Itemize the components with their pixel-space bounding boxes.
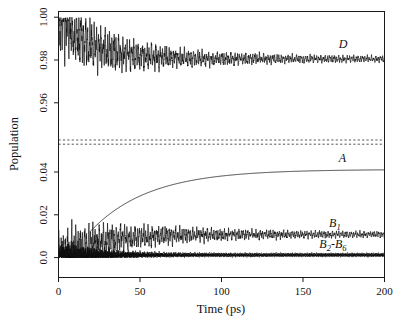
curve-label-b2-b6: B2-B6: [319, 237, 347, 253]
series-curve-d: [59, 17, 385, 76]
x-tick-label: 50: [135, 285, 147, 297]
x-tick-label: 100: [213, 285, 230, 297]
curve-label-text: B1: [329, 216, 341, 232]
y-tick-label: 0.04: [37, 162, 49, 182]
series-annotations: DAB1B2-B6: [319, 37, 348, 253]
y-axis-tick-labels: 1.000.980.960.040.020.0: [37, 7, 49, 264]
curve-label-d: D: [338, 37, 348, 51]
y-tick-label: 0.02: [37, 205, 49, 224]
curve-label-text: A: [338, 151, 347, 165]
x-axis-title: Time (ps): [197, 302, 246, 316]
y-axis-title: Population: [7, 116, 21, 171]
y-tick-label: 0.98: [37, 50, 49, 70]
curve-label-a: A: [338, 151, 347, 165]
y-tick-label: 0.0: [37, 250, 49, 264]
x-tick-label: 200: [376, 285, 393, 297]
population-dynamics-figure: 1.000.980.960.040.020.0 050100150200 DAB…: [0, 0, 405, 332]
curve-label-b1: B1: [329, 216, 341, 232]
y-tick-label: 1.00: [37, 7, 49, 27]
x-tick-label: 0: [56, 285, 62, 297]
chart-canvas: 1.000.980.960.040.020.0 050100150200 DAB…: [0, 0, 405, 332]
axis-break-markers: [59, 140, 385, 144]
y-tick-label: 0.96: [37, 93, 49, 113]
curve-label-text: B2-B6: [319, 237, 347, 253]
curve-label-text: D: [338, 37, 348, 51]
x-axis-tick-labels: 050100150200: [56, 285, 394, 297]
x-tick-label: 150: [295, 285, 312, 297]
